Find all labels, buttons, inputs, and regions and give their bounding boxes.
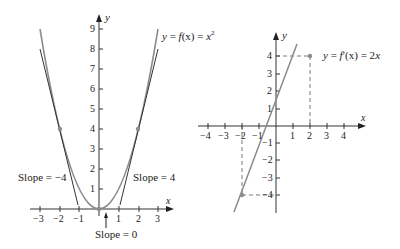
left-y-axis-label: y [105,12,110,23]
right-x-tick: −2 [235,131,246,141]
right-y-tick: 1 [267,104,272,114]
right-x-tick: 2 [307,131,312,141]
point-origin [97,207,101,211]
right-x-tick: −4 [200,131,211,141]
right-y-tick: −1 [262,138,273,148]
right-x-tick: 3 [324,131,329,141]
derivative-line [234,44,297,212]
right-y-tick: −3 [262,173,273,183]
right-x-tick: 4 [341,131,346,141]
left-y-tick: 7 [90,64,95,74]
right-x-axis-arrow-icon [358,123,366,129]
slope-left-label: Slope = −4 [18,172,66,183]
left-x-tick: −2 [53,214,64,224]
left-y-tick: 1 [90,184,95,194]
slope-zero-label: Slope = 0 [95,229,137,240]
left-x-tick: 3 [155,214,160,224]
left-x-tick: −1 [73,214,84,224]
left-x-tick: −3 [33,214,44,224]
right-y-axis-arrow-icon [273,32,279,40]
left-y-axis-arrow-icon [96,14,102,22]
point-left [58,127,62,131]
right-y-tick: −2 [262,155,273,165]
left-x-axis-arrow-icon [166,206,174,212]
left-graph-title: y = f(x) = x2 [162,30,215,42]
right-x-axis-label: x [361,113,365,123]
left-x-axis-label: x [166,196,170,206]
right-x-tick: −3 [218,131,229,141]
left-x-tick: 1 [116,214,121,224]
right-y-tick: 3 [267,69,272,79]
left-y-tick: 3 [90,144,95,154]
left-y-tick: 8 [90,44,95,54]
right-x-tick: 1 [290,131,295,141]
left-y-tick: 9 [90,24,95,34]
left-graph [30,14,174,228]
left-x-tick: 2 [136,214,141,224]
left-y-tick: 2 [90,164,95,174]
right-graph-title: y = f′(x) = 2x [323,50,380,61]
point-2-4 [308,54,312,58]
right-y-axis-label: y [282,30,287,41]
right-y-tick: 4 [267,51,272,61]
slope-zero-arrowhead-icon [104,212,108,218]
left-y-tick: 4 [90,124,95,134]
left-y-tick: 6 [90,84,95,94]
point-right [136,127,140,131]
left-y-tick: 5 [90,104,95,114]
slope-right-label: Slope = 4 [133,172,175,183]
point-neg2-neg4 [240,193,244,197]
right-y-tick: 2 [267,86,272,96]
right-y-tick: −4 [262,190,273,200]
